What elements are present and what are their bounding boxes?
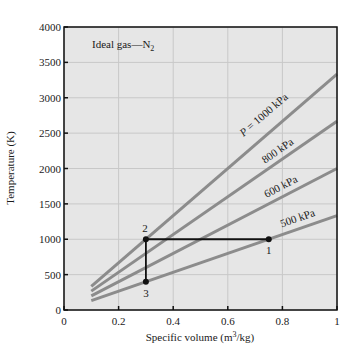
x-tick-label: 1 <box>334 315 340 327</box>
x-axis-label: Specific volume (m3/kg) <box>146 330 255 344</box>
state-point-2 <box>143 236 149 242</box>
y-tick-label: 1000 <box>39 233 62 245</box>
y-tick-label: 4000 <box>39 21 62 33</box>
x-tick-label: 0.4 <box>166 315 180 327</box>
y-tick-label: 1500 <box>39 198 62 210</box>
x-tick-label: 0.6 <box>221 315 235 327</box>
temperature-volume-chart: 123 00.20.40.60.810500100015002000250030… <box>0 0 357 354</box>
x-tick-label: 0.8 <box>276 315 290 327</box>
y-tick-label: 500 <box>45 269 62 281</box>
state-point-1 <box>266 236 272 242</box>
x-tick-label: 0 <box>61 315 67 327</box>
y-tick-label: 3000 <box>39 92 62 104</box>
state-point-label: 2 <box>142 222 148 234</box>
y-tick-label: 2500 <box>39 127 62 139</box>
state-point-label: 3 <box>143 287 149 299</box>
y-tick-label: 2000 <box>39 163 62 175</box>
state-point-3 <box>143 279 149 285</box>
y-tick-label: 0 <box>56 304 62 316</box>
y-tick-label: 3500 <box>39 56 62 68</box>
x-tick-label: 0.2 <box>112 315 126 327</box>
state-point-label: 1 <box>266 244 272 256</box>
y-axis-label: Temperature (K) <box>4 131 17 205</box>
